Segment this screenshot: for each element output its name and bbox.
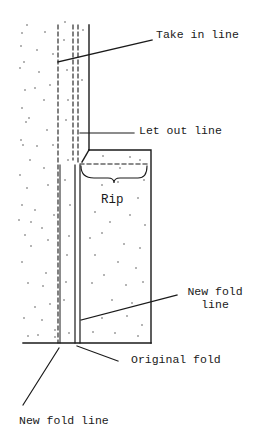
- new-fold-leader-right: [81, 295, 177, 320]
- original-fold-leader: [77, 346, 118, 361]
- take-in-leader: [58, 40, 152, 62]
- hem-diagram: [0, 0, 266, 438]
- rip-box-outline: [89, 150, 151, 343]
- take-in-line-label: Take in line: [156, 28, 239, 41]
- new-fold-leader-bottom: [23, 348, 59, 405]
- rip-label: Rip: [101, 194, 124, 207]
- corner-diagonal: [82, 150, 89, 162]
- new-fold-line-label-bottom: New fold line: [19, 414, 109, 427]
- rip-brace: [81, 166, 147, 183]
- original-fold-label: Original fold: [131, 353, 221, 366]
- new-fold-line-label-right-2: line: [180, 298, 250, 311]
- let-out-line-label: Let out line: [139, 124, 222, 137]
- new-fold-line-label-right-1: New fold: [180, 285, 250, 298]
- fabric-stipple: [18, 21, 145, 337]
